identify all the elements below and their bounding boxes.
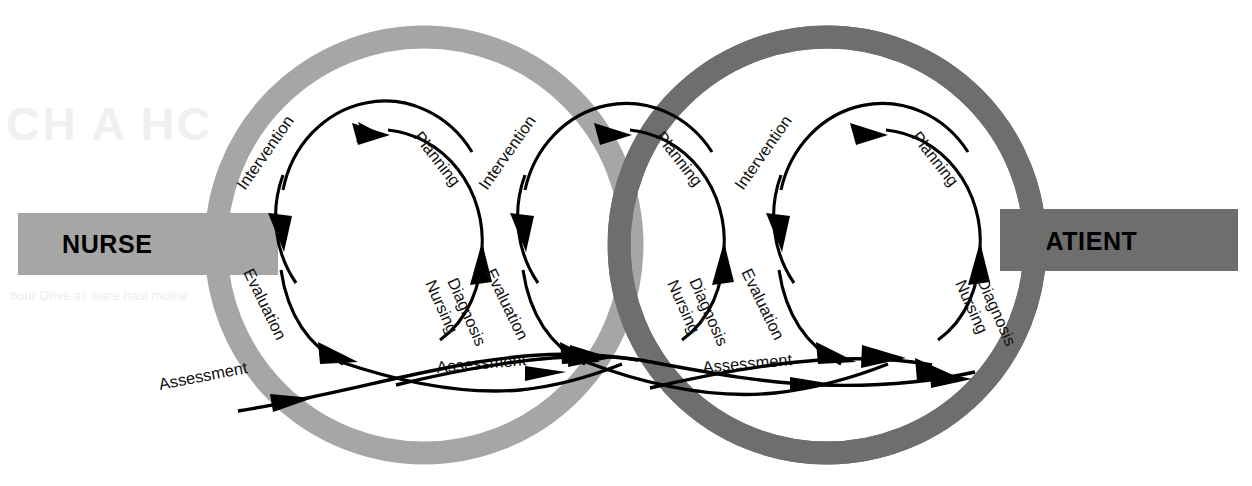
- svg-text:CH A HC: CH A HC: [6, 97, 212, 150]
- flow-lines: [238, 345, 975, 412]
- cycle1-arrowhead-top: [352, 123, 390, 145]
- cycle1-label-assessment: Assessment: [157, 358, 249, 393]
- cycle2-label-intervention: Intervention: [475, 112, 539, 193]
- flow-arrowhead-terminal: [915, 358, 962, 381]
- diagram-canvas: CH A HC bour Drive as eiare hast moine N…: [0, 0, 1252, 486]
- nursing-process-diagram: CH A HC bour Drive as eiare hast moine N…: [0, 0, 1252, 486]
- svg-text:bour Drive as eiare hast m: bour Drive as eiare hast moine: [10, 288, 187, 303]
- cycle1-arrowhead-lower-left: [318, 342, 358, 364]
- patient-ring-overlap: [619, 37, 1035, 453]
- flow-arrowhead-mid: [525, 366, 566, 381]
- patient-cycle: Intervention Planning Evaluation Nursing…: [702, 103, 1020, 376]
- nurse-label: NURSE: [62, 230, 153, 258]
- cycle2-label-planning: Planning: [653, 128, 707, 190]
- cycle1-label-planning: Planning: [411, 128, 465, 190]
- cycle3-label-planning: Planning: [909, 128, 963, 190]
- cycle3-label-intervention: Intervention: [731, 112, 795, 193]
- nurse-endpoint: NURSE: [18, 213, 278, 275]
- cycle3-arrowhead-top: [850, 123, 888, 145]
